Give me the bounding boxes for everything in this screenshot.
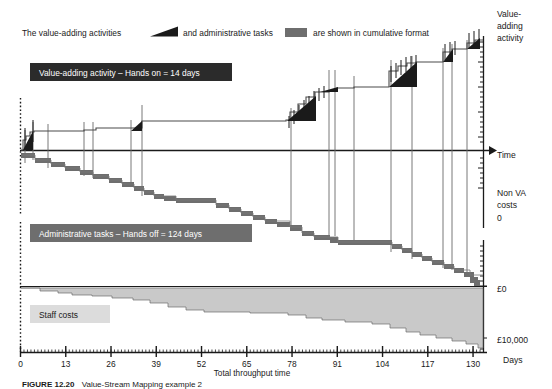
right-label-zero-upper: 0 [497,213,502,223]
legend: The value-adding activities and administ… [22,27,430,39]
x-axis-tick-label: 78 [287,359,297,369]
callout-value-adding-label: Value-adding activity – Hands on = 14 da… [39,68,200,78]
legend-middle-label: and administrative tasks [183,28,273,38]
caption-figure-number: FIGURE 12.20 [22,380,75,389]
admin-endpoint-marker [474,280,480,286]
callout-staff-costs[interactable]: Staff costs [30,305,110,323]
right-label-value-adding-line3: activity [497,33,524,43]
x-axis-tick-label: 91 [333,359,343,369]
right-label-non-va-line2: costs [497,200,517,210]
admin-block-icon [285,28,307,37]
x-axis-tick-label: 52 [197,359,207,369]
legend-prefix-label: The value-adding activities [22,28,121,38]
x-axis-tick-label: 130 [466,359,480,369]
right-label-value-adding-line2: adding [497,21,523,31]
right-label-days: Days [503,355,523,365]
x-axis-tick-label: 65 [242,359,252,369]
right-label-value-adding-line1: Value- [497,9,521,19]
figure-caption: FIGURE 12.20 Value-Stream Mapping exampl… [22,380,203,389]
callout-administrative-label: Administrative tasks – Hands off = 124 d… [39,229,202,239]
callout-staff-costs-label: Staff costs [39,310,78,320]
caption-line: FIGURE 12.20 Value-Stream Mapping exampl… [22,380,203,389]
x-axis-tick-label: 26 [106,359,116,369]
right-label-money-ten-k: £10,000 [497,335,528,345]
right-label-money-zero: £0 [497,284,507,294]
callout-value-adding[interactable]: Value-adding activity – Hands on = 14 da… [30,63,232,81]
x-axis-tick-label: 104 [376,359,390,369]
right-label-non-va-line1: Non VA [497,188,526,198]
caption-figure-text: Value-Stream Mapping example 2 [82,380,203,389]
chart-canvas: The value-adding activities and administ… [0,0,552,389]
value-stream-map-figure: The value-adding activities and administ… [0,0,552,389]
x-axis-tick-label: 39 [152,359,162,369]
x-axis-title: Total throughput time [214,369,291,378]
x-axis-tick-label: 13 [61,359,71,369]
x-axis-tick-label: 0 [18,359,23,369]
x-axis-tick-label: 117 [421,359,435,369]
callout-administrative[interactable]: Administrative tasks – Hands off = 124 d… [30,224,252,242]
legend-suffix-label: are shown in cumulative format [313,28,430,38]
right-label-time: Time [497,150,516,160]
